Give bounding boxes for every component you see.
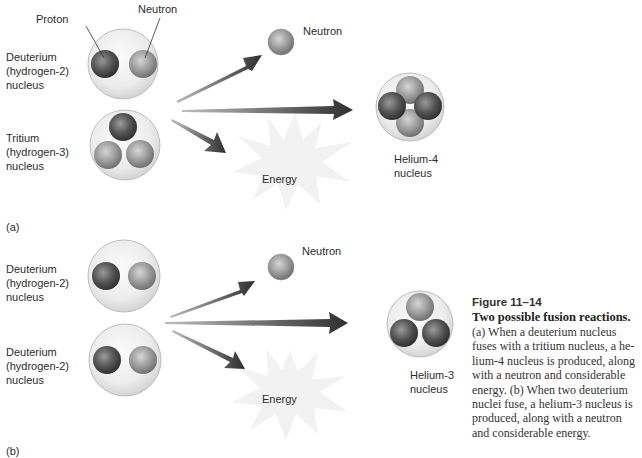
- figure-caption: Figure 11–14 Two possible fusion reactio…: [472, 296, 640, 440]
- deuterium-nucleus-b2: [89, 324, 161, 396]
- neutron-product-label-b: Neutron: [302, 244, 341, 258]
- neutron-product-b: [268, 254, 294, 280]
- tritium-nucleus-a: [90, 110, 160, 180]
- deuterium-label-b1: Deuterium (hydrogen-2) nucleus: [6, 262, 69, 304]
- helium4-label: Helium-4 nucleus: [394, 152, 438, 180]
- neutron-product-label-a: Neutron: [303, 24, 342, 38]
- tritium-label-a: Tritium (hydrogen-3) nucleus: [6, 131, 69, 173]
- figure-number: Figure 11–14: [472, 296, 640, 308]
- proton-callout-label: Proton: [36, 12, 68, 26]
- neutron-callout-label: Neutron: [138, 2, 177, 16]
- panel-a-label: (a): [6, 220, 19, 234]
- arrow-to-neutron-b: [170, 281, 255, 318]
- helium3-nucleus: [387, 291, 453, 357]
- neutron-product-a: [268, 29, 294, 55]
- arrow-to-energy-b: [172, 330, 245, 369]
- helium4-nucleus: [376, 73, 444, 141]
- deuterium-label-a: Deuterium (hydrogen-2) nucleus: [6, 50, 69, 92]
- energy-label-a: Energy: [262, 172, 297, 186]
- arrow-to-neutron-a: [176, 55, 262, 103]
- deuterium-nucleus-b1: [88, 240, 160, 312]
- arrow-to-helium4: [182, 99, 353, 120]
- energy-label-b: Energy: [262, 392, 297, 406]
- deuterium-label-b2: Deuterium (hydrogen-2) nucleus: [6, 345, 69, 387]
- figure-body: (a) When a deuterium nucleus fuses with …: [472, 325, 640, 440]
- arrow-to-energy-a: [171, 119, 226, 153]
- arrow-to-helium3: [165, 312, 348, 334]
- helium3-label: Helium-3 nucleus: [410, 368, 454, 396]
- energy-burst-a: [232, 112, 352, 210]
- deuterium-nucleus-a: [88, 29, 158, 99]
- figure-title: Two possible fusion reactions.: [472, 310, 640, 325]
- panel-b-label: (b): [6, 444, 19, 458]
